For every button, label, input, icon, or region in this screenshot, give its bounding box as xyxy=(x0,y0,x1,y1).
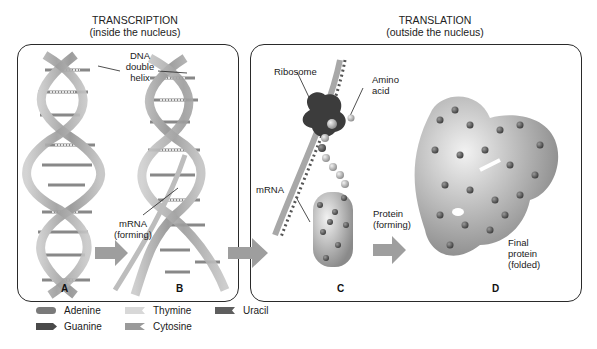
cytosine-swatch-icon xyxy=(125,323,145,330)
step-c-label: C xyxy=(337,283,344,294)
protein-forming-chain xyxy=(313,134,353,267)
mrna-forming-line2: (forming) xyxy=(108,229,158,240)
illustration-layer xyxy=(0,0,597,349)
guanine-swatch-icon xyxy=(36,323,57,330)
dna-double-helix-label: DNA double helix xyxy=(120,50,160,83)
dna-helix-a xyxy=(27,55,101,295)
dna-label-line2: double xyxy=(120,61,160,72)
legend-thymine: Thymine xyxy=(153,305,191,316)
arrow-a-to-b-icon xyxy=(95,240,128,266)
amino-label-line2: acid xyxy=(372,85,399,96)
thymine-swatch-icon xyxy=(125,307,145,314)
mrna-forming-line1: mRNA xyxy=(108,218,158,229)
arrow-c-to-d-icon xyxy=(373,236,406,264)
final-label-line1: Final xyxy=(508,237,540,248)
final-label-line2: protein xyxy=(508,248,540,259)
amino-acid-label: Amino acid xyxy=(372,74,399,96)
mrna-label: mRNA xyxy=(256,184,284,195)
step-a-label: A xyxy=(61,283,68,294)
legend-guanine: Guanine xyxy=(64,321,102,332)
ribosome-icon xyxy=(303,92,346,137)
legend-uracil: Uracil xyxy=(243,305,269,316)
step-b-label: B xyxy=(176,283,183,294)
protein-forming-line1: Protein xyxy=(373,208,411,219)
arrow-b-to-c-icon xyxy=(228,238,268,268)
legend-cytosine: Cytosine xyxy=(153,321,192,332)
ribosome-label: Ribosome xyxy=(274,66,317,77)
uracil-swatch-icon xyxy=(215,307,235,314)
final-label-line3: (folded) xyxy=(508,259,540,270)
protein-forming-line2: (forming) xyxy=(373,219,411,230)
amino-acid-icon xyxy=(348,115,355,122)
protein-forming-label: Protein (forming) xyxy=(373,208,411,230)
mrna-forming-label: mRNA (forming) xyxy=(108,218,158,240)
step-d-label: D xyxy=(492,283,499,294)
dna-label-line3: helix xyxy=(120,72,160,83)
folded-protein xyxy=(415,97,559,256)
amino-label-line1: Amino xyxy=(372,74,399,85)
final-protein-label: Final protein (folded) xyxy=(508,237,540,270)
dna-label-line1: DNA xyxy=(120,50,160,61)
adenine-swatch-icon xyxy=(36,307,56,314)
legend-adenine: Adenine xyxy=(64,305,101,316)
dna-helix-b xyxy=(115,58,225,295)
